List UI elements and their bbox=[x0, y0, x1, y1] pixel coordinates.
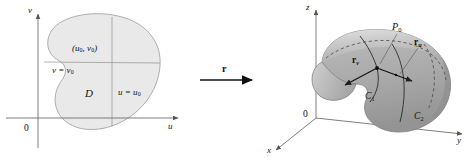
point-u0v0-label: (u0, v0) bbox=[72, 44, 97, 54]
u-axis-label: u bbox=[168, 122, 173, 131]
mapping-arrow-label: r bbox=[222, 64, 226, 74]
x-axis-label: x bbox=[267, 146, 271, 155]
xyz-origin-label: 0 bbox=[303, 110, 308, 120]
region-d-label: D bbox=[85, 88, 93, 99]
surface-group bbox=[312, 30, 451, 133]
z-axis-label: z bbox=[306, 3, 310, 12]
u-equals-u0-label: u = u0 bbox=[118, 88, 141, 98]
v-axis-label: v bbox=[28, 6, 32, 15]
uv-origin-label: 0 bbox=[24, 124, 29, 134]
uv-plane-group bbox=[6, 14, 178, 148]
curve-c2-label: C2 bbox=[414, 112, 424, 122]
point-p0-label: P0 bbox=[392, 22, 402, 33]
v-equals-v0-label: v = v0 bbox=[52, 66, 74, 76]
curve-c1-label: C1 bbox=[365, 92, 375, 102]
tangent-rv-label: rv bbox=[352, 56, 359, 66]
figure-canvas bbox=[0, 0, 473, 162]
tangent-ru-label: ru bbox=[414, 38, 422, 48]
ru-tick-dot bbox=[395, 74, 397, 76]
y-axis-label: y bbox=[457, 136, 461, 145]
x-axis bbox=[276, 118, 316, 150]
